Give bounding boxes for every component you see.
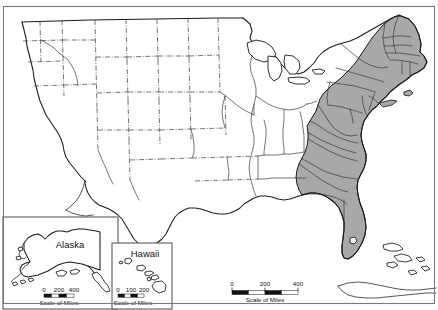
alaska-scale-tick-400: 400 xyxy=(69,286,80,293)
alaska-scale-tick-0: 0 xyxy=(42,286,46,293)
alaska-small-island-1 xyxy=(18,247,23,251)
main-scale-tick-0: 0 xyxy=(230,280,234,287)
hawaii-scale-tick-0: 0 xyxy=(116,286,120,293)
alaska-label: Alaska xyxy=(56,239,85,250)
alaska-inset: Alaska 0 200 400 Scale of Miles xyxy=(3,217,118,309)
lake-ontario xyxy=(312,69,325,74)
hawaii-scale-tick-100: 100 xyxy=(126,286,137,293)
hawaii-island-niihau xyxy=(119,261,123,264)
hawaii-scale-caption: Scale of Miles xyxy=(114,299,153,306)
main-scale-tick-200: 200 xyxy=(260,280,271,287)
hawaii-island-lanai xyxy=(147,277,151,281)
hawaii-label: Hawaii xyxy=(131,248,160,259)
alaska-scale-caption: Scale of Miles xyxy=(40,299,79,306)
main-scale-caption: Scale of Miles xyxy=(246,296,285,303)
alaska-scale-tick-200: 200 xyxy=(54,286,65,293)
lake-erie xyxy=(288,77,310,84)
map-canvas: 0 200 400 Scale of Miles Alaska xyxy=(0,0,438,310)
map-figure: 0 200 400 Scale of Miles Alaska xyxy=(0,0,438,310)
main-scale-tick-400: 400 xyxy=(293,280,304,287)
hawaii-scale-tick-200: 200 xyxy=(139,286,150,293)
alaska-small-island-2 xyxy=(16,256,21,260)
hawaii-inset: Hawaii 0 100 200 Scale of Miles xyxy=(112,243,172,309)
